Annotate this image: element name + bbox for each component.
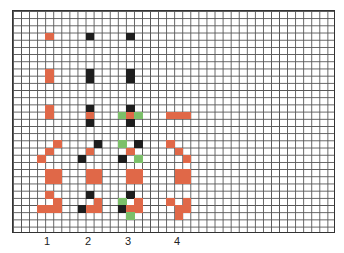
orange-cell xyxy=(45,76,54,84)
black-cell xyxy=(126,76,135,84)
orange-cell xyxy=(183,205,192,213)
orange-cell xyxy=(45,33,54,41)
orange-cell xyxy=(53,176,62,184)
black-cell xyxy=(118,155,127,163)
black-cell xyxy=(126,119,135,127)
orange-cell xyxy=(175,212,184,220)
column-label: 4 xyxy=(174,235,180,247)
orange-cell xyxy=(183,176,192,184)
column-label: 2 xyxy=(85,235,91,247)
orange-cell xyxy=(134,205,143,213)
orange-cell xyxy=(37,155,46,163)
orange-cell xyxy=(94,176,103,184)
column-label: 1 xyxy=(44,235,50,247)
orange-cell xyxy=(94,205,103,213)
orange-cell xyxy=(45,112,54,120)
green-cell xyxy=(134,155,143,163)
column-label: 3 xyxy=(125,235,131,247)
orange-cell xyxy=(53,140,62,148)
orange-cell xyxy=(86,148,95,156)
pattern-grid xyxy=(12,10,335,233)
orange-cell xyxy=(45,148,54,156)
black-cell xyxy=(134,140,143,148)
orange-cell xyxy=(183,155,192,163)
black-cell xyxy=(94,140,103,148)
green-cell xyxy=(134,112,143,120)
orange-cell xyxy=(183,112,192,120)
black-cell xyxy=(126,33,135,41)
green-cell xyxy=(126,212,135,220)
black-cell xyxy=(86,76,95,84)
orange-cell xyxy=(134,176,143,184)
orange-cell xyxy=(53,205,62,213)
black-cell xyxy=(78,155,87,163)
black-cell xyxy=(86,33,95,41)
black-cell xyxy=(86,119,95,127)
